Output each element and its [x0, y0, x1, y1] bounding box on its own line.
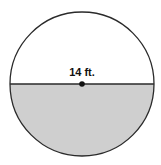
center-point: [79, 81, 85, 87]
diameter-label: 14 ft.: [69, 66, 95, 78]
circle-diagram: 14 ft.: [0, 0, 161, 165]
shaded-lower-semicircle: [10, 84, 154, 156]
